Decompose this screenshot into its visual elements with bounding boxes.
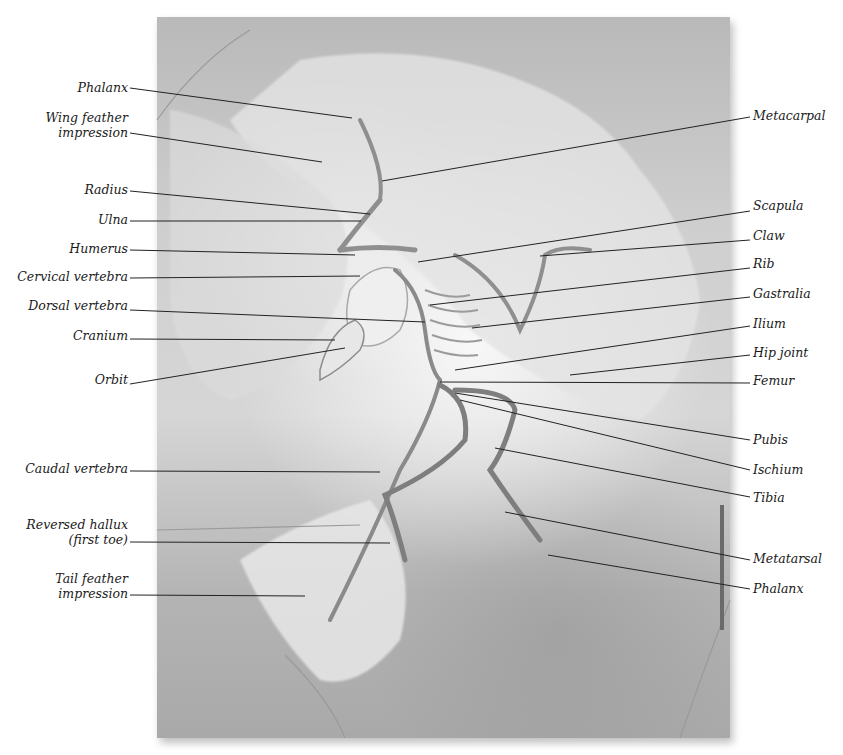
- label-text: Metacarpal: [753, 108, 826, 123]
- label-text: Tibia: [753, 490, 785, 505]
- label-reversed-hallux: Reversed hallux (first toe): [26, 517, 128, 547]
- label-text: Ischium: [753, 462, 803, 477]
- label-text: Cervical vertebra: [17, 269, 128, 284]
- label-text: Caudal vertebra: [25, 461, 128, 476]
- label-claw: Claw: [753, 228, 785, 243]
- label-cranium: Cranium: [73, 328, 128, 343]
- label-phalanx-foot: Phalanx: [753, 581, 803, 596]
- label-text-line1: Reversed hallux: [26, 517, 128, 532]
- label-text: Phalanx: [78, 80, 128, 95]
- label-text: Hip joint: [753, 345, 808, 360]
- label-caudal-vertebra: Caudal vertebra: [25, 461, 128, 476]
- label-cervical-vertebra: Cervical vertebra: [17, 269, 128, 284]
- label-radius: Radius: [84, 182, 128, 197]
- label-text: Metatarsal: [753, 551, 822, 566]
- label-text: Ulna: [98, 212, 128, 227]
- label-phalanx-wing: Phalanx: [78, 80, 128, 95]
- label-ilium: Ilium: [753, 316, 786, 331]
- label-metacarpal: Metacarpal: [753, 108, 826, 123]
- left-humerus: [340, 248, 415, 251]
- label-text: Dorsal vertebra: [28, 298, 128, 313]
- label-pubis: Pubis: [753, 432, 788, 447]
- label-text: Humerus: [69, 241, 128, 256]
- label-text-line1: Tail feather: [55, 571, 128, 586]
- label-gastralia: Gastralia: [753, 286, 811, 301]
- label-text-line1: Wing feather: [45, 110, 128, 125]
- label-orbit: Orbit: [95, 372, 128, 387]
- label-tail-feather-impression: Tail feather impression: [55, 571, 128, 601]
- label-ischium: Ischium: [753, 462, 803, 477]
- right-leg: [455, 390, 540, 540]
- label-text-line2: (first toe): [26, 532, 128, 547]
- label-ulna: Ulna: [98, 212, 128, 227]
- label-text: Gastralia: [753, 286, 811, 301]
- label-text: Orbit: [95, 372, 128, 387]
- label-text-line2: impression: [55, 586, 128, 601]
- label-text: Phalanx: [753, 581, 803, 596]
- label-text: Ilium: [753, 316, 786, 331]
- label-wing-feather-impression: Wing feather impression: [45, 110, 128, 140]
- label-metatarsal: Metatarsal: [753, 551, 822, 566]
- label-text-line2: impression: [45, 125, 128, 140]
- label-text: Rib: [753, 256, 774, 271]
- label-dorsal-vertebra: Dorsal vertebra: [28, 298, 128, 313]
- label-text: Radius: [84, 182, 128, 197]
- archaeopteryx-diagram: Phalanx Wing feather impression Radius U…: [0, 0, 843, 755]
- skull-beak: [320, 320, 364, 380]
- label-rib: Rib: [753, 256, 774, 271]
- label-text: Cranium: [73, 328, 128, 343]
- label-femur: Femur: [753, 373, 794, 388]
- label-text: Pubis: [753, 432, 788, 447]
- label-scapula: Scapula: [753, 198, 804, 213]
- label-text: Femur: [753, 373, 794, 388]
- label-text: Claw: [753, 228, 785, 243]
- label-hip-joint: Hip joint: [753, 345, 808, 360]
- label-tibia: Tibia: [753, 490, 785, 505]
- label-text: Scapula: [753, 198, 804, 213]
- label-humerus: Humerus: [69, 241, 128, 256]
